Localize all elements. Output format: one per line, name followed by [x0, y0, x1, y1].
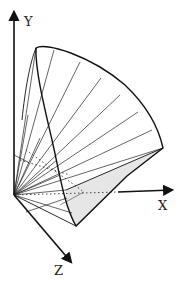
inner-edge: [14, 195, 76, 226]
cone-diagram: Y X Z: [0, 0, 179, 291]
z-axis: [14, 195, 71, 262]
z-axis-label: Z: [54, 263, 63, 278]
rim-back-edge: [22, 48, 36, 120]
x-axis: [118, 190, 172, 192]
x-axis-label: X: [158, 198, 168, 213]
y-axis-label: Y: [23, 14, 33, 29]
